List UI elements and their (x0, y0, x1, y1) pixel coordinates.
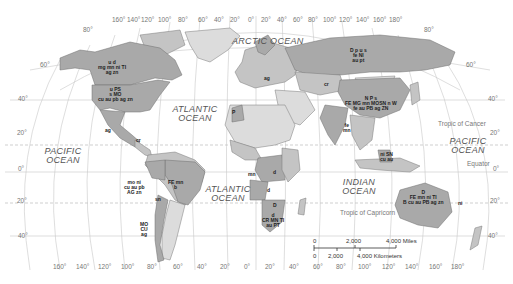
scale-bar (314, 245, 396, 251)
lon-bottom: 120° (382, 264, 395, 271)
tropic-of-cancer-label: Tropic of Cancer (438, 121, 486, 128)
lon-top: 80° (308, 17, 318, 24)
resource-label-angola: d (267, 188, 270, 193)
lon-top: 140° (356, 17, 369, 24)
resource-label-pacific-islands: ni (458, 201, 462, 206)
resource-label-botswana: D (273, 203, 277, 208)
lon-top: 100° (323, 17, 336, 24)
ocean-label-pacific-east: PACIFIC OCEAN (443, 137, 493, 155)
lon-top: 80° (178, 17, 188, 24)
lat-right: 40° (488, 233, 498, 240)
resource-label-usa: u PSs MOcu au pb ag zn (98, 87, 133, 102)
ocean-label-arctic: ARCTIC OCEAN (232, 37, 304, 46)
lon-top: 120° (141, 17, 154, 24)
scale-miles-0: 0 (313, 238, 316, 244)
lon-bottom: 160° (429, 264, 442, 271)
resource-label-canada: u dmg mn ni TIag zn (98, 60, 126, 75)
resource-label-india: femn (343, 123, 351, 133)
lon-bottom: 40° (197, 264, 207, 271)
resource-label-congo: d (273, 170, 276, 175)
resource-label-andes-north: mo nicu au pbAG zn (124, 180, 145, 195)
lon-top: 160° (112, 17, 125, 24)
resource-label-south-africa: dCR MN TIau PT (262, 213, 284, 228)
lon-top: 120° (339, 17, 352, 24)
resource-label-chile: MOCUag (140, 222, 148, 237)
scale-km-0: 0 (313, 253, 316, 259)
lon-bottom: 80° (336, 264, 346, 271)
congo (255, 155, 285, 182)
lon-top: 20° (230, 17, 240, 24)
new-zealand (470, 226, 482, 250)
lon-bottom: 180° (451, 264, 464, 271)
lon-top: 60° (198, 17, 208, 24)
lon-bottom: 20° (220, 264, 230, 271)
lon-top: 20° (261, 17, 271, 24)
lon-bottom: 80° (147, 264, 157, 271)
equator-label: Equator (467, 161, 490, 168)
scale-miles-2000: 2,000 (346, 238, 361, 244)
lon-top: 100° (158, 17, 171, 24)
lon-top: 0° (248, 17, 254, 24)
lat-right: 60° (466, 62, 476, 69)
resource-label-indonesia: ni SNcu au (380, 152, 393, 162)
scale-miles-4000: 4,000 Miles (386, 238, 417, 244)
lat-left: 40° (18, 96, 28, 103)
tropic-of-capricorn-label: Tropic of Capricorn (340, 210, 395, 217)
lat-right: 80° (424, 27, 434, 34)
russia (285, 35, 455, 75)
lon-bottom: 40° (289, 264, 299, 271)
lon-bottom: 140° (76, 264, 89, 271)
central-asia (295, 72, 345, 95)
lon-bottom: 160° (53, 264, 66, 271)
resource-label-china: N P sFE MG mn MOSN n Wfe au PB ag ZN (345, 96, 397, 111)
lon-bottom: 20° (265, 264, 275, 271)
ocean-label-indian: INDIAN OCEAN (334, 178, 384, 196)
lat-right: 20° (490, 198, 500, 205)
resource-label-west-africa: mn (248, 172, 256, 177)
lat-left: 20° (17, 130, 27, 137)
resource-label-russia: D p u sfe NIau pt (350, 48, 367, 63)
ocean-label-atlantic-south: ATLANTIC OCEAN (198, 185, 258, 203)
lat-left: 0° (18, 166, 24, 173)
ocean-label-pacific-west: PACIFIC OCEAN (38, 147, 88, 165)
lat-left: 40° (18, 233, 28, 240)
andes-north (145, 160, 165, 180)
japan (410, 82, 420, 105)
scale-km-2000: 2,000 (328, 253, 343, 259)
resource-label-europe: ag (264, 76, 270, 81)
lat-right: 20° (490, 130, 500, 137)
scale-km-4000: 4,000 Kilometers (357, 253, 402, 259)
lon-bottom: 140° (405, 264, 418, 271)
resource-label-bolivia: sn (155, 197, 161, 202)
madagascar (298, 198, 306, 215)
lon-bottom: 60° (313, 264, 323, 271)
lat-left: 80° (83, 27, 93, 34)
lat-right: 0° (493, 166, 499, 173)
resource-label-cuba: cr (136, 138, 141, 143)
lon-bottom: 0° (244, 264, 250, 271)
lon-bottom: 60° (173, 264, 183, 271)
lat-left: 60° (40, 62, 50, 69)
lon-bottom: 100° (121, 264, 134, 271)
lon-top: 60° (293, 17, 303, 24)
lon-top: 40° (277, 17, 287, 24)
ocean-label-atlantic-north: ATLANTIC OCEAN (165, 105, 225, 123)
lat-left: 20° (17, 198, 27, 205)
lon-top: 40° (214, 17, 224, 24)
lon-bottom: 120° (98, 264, 111, 271)
lat-right: 40° (488, 96, 498, 103)
resource-label-australia: DFE mn ni TIB cu au PB ag zn (403, 190, 444, 205)
resource-label-brazil: FE mnb (168, 180, 183, 190)
lon-bottom: 100° (358, 264, 371, 271)
lon-top: 160° (373, 17, 386, 24)
lon-top: 140° (127, 17, 140, 24)
resource-label-mexico: ag (105, 128, 111, 133)
resource-label-central-asia: cr (324, 82, 329, 87)
lon-top: 180° (389, 17, 402, 24)
resource-label-morocco: P (232, 110, 235, 115)
